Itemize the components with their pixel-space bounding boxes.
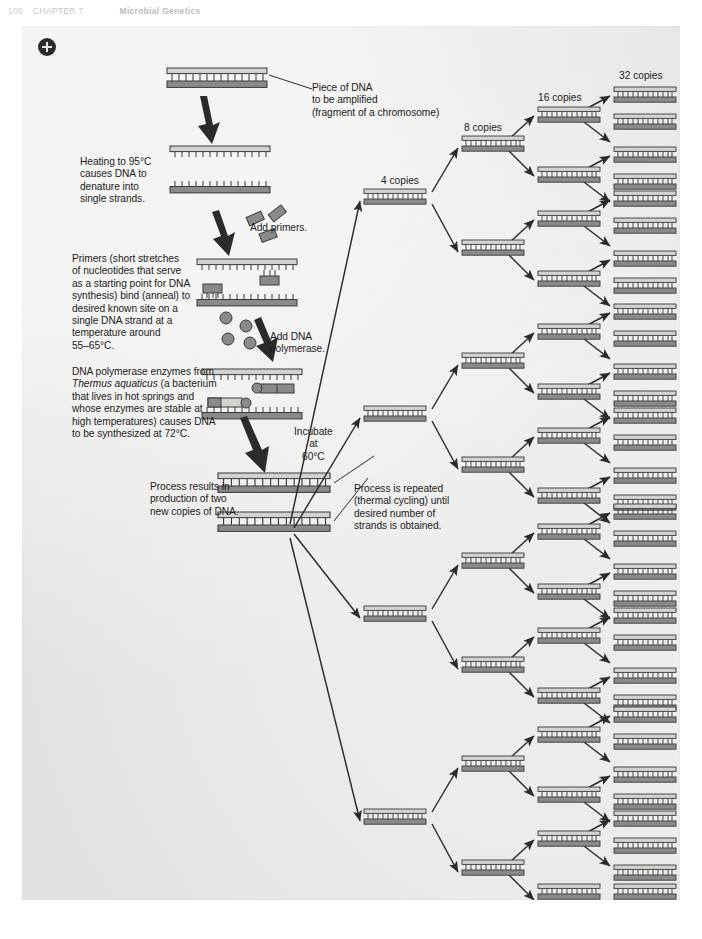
leader-line-piece-of-dna	[269, 75, 312, 89]
callout-add-primers: Add primers.	[250, 222, 307, 234]
dna-synthesis-bottom	[202, 407, 302, 419]
dna-strand-with-primer-bottom	[197, 294, 297, 306]
species-name-thermus-aquaticus: Thermus aquaticus	[72, 378, 158, 389]
dna-original-duplex	[167, 68, 267, 87]
callout-taq-polymerase: DNA polymerase enzymes from Thermus aqua…	[72, 366, 217, 440]
label-4-copies: 4 copies	[381, 175, 419, 187]
tree-column-32-copies	[614, 87, 676, 899]
label-32-copies: 32 copies	[619, 70, 663, 82]
page-running-head: 106 CHAPTER 7 Microbial Genetics	[0, 0, 702, 22]
callout-process-results: Process results in production of two new…	[150, 481, 239, 518]
callout-add-dna-polymerase: Add DNA polymerase.	[270, 331, 325, 356]
dna-strand-with-primer-top	[197, 259, 297, 270]
callout-incubate-at-60: Incubate at 60°C	[294, 426, 333, 463]
page-number: 106	[8, 6, 23, 16]
dna-single-strand-bottom	[170, 181, 270, 193]
callout-piece-of-dna: Piece of DNA to be amplified (fragment o…	[312, 82, 439, 119]
dna-synthesis-top	[202, 369, 302, 380]
label-16-copies: 16 copies	[538, 92, 582, 104]
polymerase-on-top-strand	[252, 383, 294, 393]
primer-bound-bottom	[203, 284, 222, 298]
leader-line-copy-1	[334, 456, 374, 483]
arrow-denature	[198, 96, 220, 144]
tree-column-16-copies	[538, 107, 600, 899]
callout-process-repeated: Process is repeated (thermal cycling) un…	[354, 483, 449, 533]
arrow-incubate	[240, 416, 269, 473]
arrow-add-primers	[212, 210, 235, 256]
callout-heating-denature: Heating to 95°C causes DNA to denature i…	[80, 156, 151, 206]
figure-plate: Piece of DNA to be amplified (fragment o…	[22, 26, 680, 900]
primer-bound-top	[260, 270, 279, 285]
chapter-title: Microbial Genetics	[120, 6, 201, 16]
dna-single-strand-top	[170, 146, 270, 157]
chapter-label: CHAPTER 7	[33, 6, 83, 16]
tree-column-8-copies	[462, 136, 524, 875]
dna-polymerase-molecules	[220, 312, 256, 349]
callout-primers-anneal: Primers (short stretches of nucleotides …	[72, 253, 190, 352]
label-8-copies: 8 copies	[464, 122, 502, 134]
